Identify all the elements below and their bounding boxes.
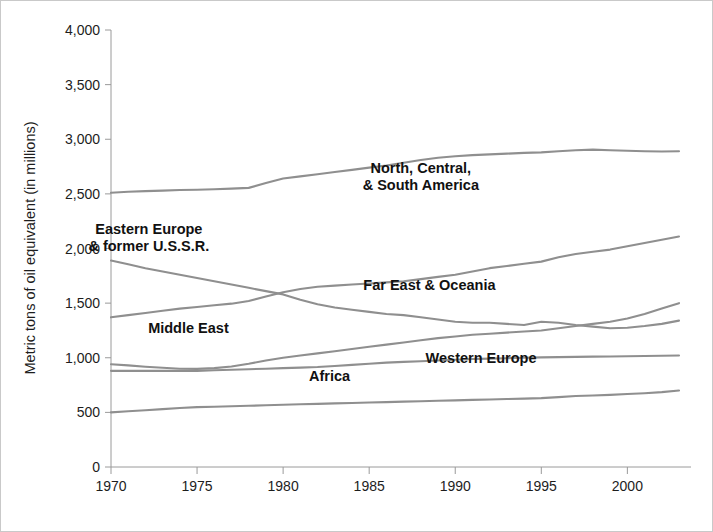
series-label-line1: Eastern Europe: [95, 221, 202, 237]
x-tick-label: 1975: [181, 478, 212, 494]
y-tick-label: 2,500: [65, 186, 100, 202]
chart-figure: 05001,0001,5002,0002,5003,0003,5004,0001…: [0, 0, 713, 532]
x-tick-label: 1990: [440, 478, 471, 494]
x-tick-label: 1970: [95, 478, 126, 494]
series-label-far-east: Far East & Oceania: [363, 277, 496, 293]
series-line-eastern-europe-former-u-s-s-r: [111, 261, 679, 329]
y-tick-label: 3,000: [65, 131, 100, 147]
series-label-middle-east: Middle East: [148, 320, 229, 336]
series-label-africa: Africa: [309, 368, 351, 384]
y-tick-label: 1,500: [65, 295, 100, 311]
series-label-eastern-europe: Eastern Europe& former U.S.S.R.: [88, 221, 209, 254]
series-label-western-europe: Western Europe: [426, 350, 537, 366]
series-label-line2: & former U.S.S.R.: [88, 238, 209, 254]
line-chart-svg: 05001,0001,5002,0002,5003,0003,5004,0001…: [1, 1, 713, 532]
y-tick-label: 1,000: [65, 350, 100, 366]
y-tick-label: 3,500: [65, 77, 100, 93]
y-axis-title: Metric tons of oil equivalent (in millio…: [22, 121, 38, 374]
x-tick-label: 2000: [612, 478, 643, 494]
y-tick-label: 4,000: [65, 22, 100, 38]
series-line-africa: [111, 391, 679, 413]
series-label-line2: & South America: [363, 177, 480, 193]
y-tick-label: 500: [77, 404, 101, 420]
series-label-americas: North, Central,& South America: [363, 160, 480, 193]
x-tick-label: 1995: [526, 478, 557, 494]
series-label-line1: North, Central,: [370, 160, 471, 176]
y-tick-label: 0: [92, 459, 100, 475]
x-tick-label: 1980: [268, 478, 299, 494]
x-tick-label: 1985: [354, 478, 385, 494]
